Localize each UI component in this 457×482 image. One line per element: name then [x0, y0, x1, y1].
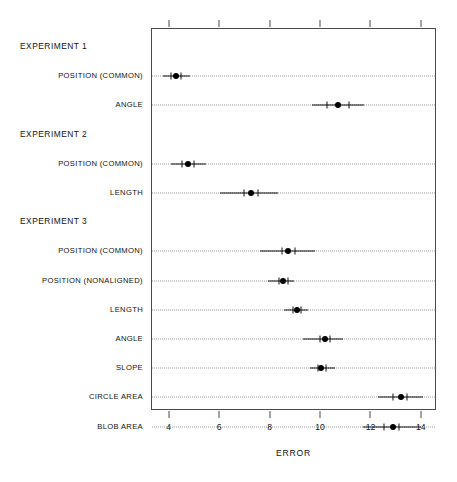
- error-bar-tick-inner-low: [170, 73, 171, 80]
- data-point: [318, 365, 324, 371]
- row-label: BLOB AREA: [97, 421, 143, 430]
- group-label-2: EXPERIMENT 2: [20, 129, 87, 139]
- axis-tick-label: 14: [416, 422, 426, 432]
- axis-tick-label: 8: [267, 422, 272, 432]
- axis-tick-top: [420, 20, 421, 27]
- x-axis-title: ERROR: [276, 448, 311, 458]
- axis-tick-label: 6: [217, 422, 222, 432]
- group-label-3: EXPERIMENT 3: [20, 216, 87, 226]
- error-bar-tick-inner-high: [301, 306, 302, 313]
- error-bar-tick-inner-high: [399, 423, 400, 430]
- axis-tick-bottom: [420, 411, 421, 418]
- row-label: LENGTH: [110, 304, 143, 313]
- error-bar-tick-inner-low: [319, 336, 320, 343]
- error-bar-tick-inner-high: [348, 102, 349, 109]
- error-bar-tick-inner-high: [326, 365, 327, 372]
- row-label: POSITION (NONALIGNED): [42, 275, 143, 284]
- error-bar-tick-inner-high: [287, 277, 288, 284]
- axis-tick-top: [168, 20, 169, 27]
- error-bar-tick-inner-low: [392, 394, 393, 401]
- grid-line: [152, 368, 435, 369]
- axis-tick-label: 4: [166, 422, 171, 432]
- error-bar-tick-inner-high: [181, 73, 182, 80]
- axis-tick-label: 10: [315, 422, 325, 432]
- axis-tick-bottom: [370, 411, 371, 418]
- row-label: ANGLE: [116, 334, 144, 343]
- axis-tick-bottom: [269, 411, 270, 418]
- error-bar-tick-inner-low: [281, 248, 282, 255]
- error-bar-tick-inner-high: [406, 394, 407, 401]
- data-point: [248, 190, 254, 196]
- data-point: [390, 424, 396, 430]
- group-label-1: EXPERIMENT 1: [20, 41, 87, 51]
- axis-tick-top: [370, 20, 371, 27]
- grid-line: [152, 339, 435, 340]
- axis-tick-bottom: [219, 411, 220, 418]
- error-bar-tick-inner-low: [182, 160, 183, 167]
- row-label: SLOPE: [116, 363, 143, 372]
- row-label: POSITION (COMMON): [58, 158, 143, 167]
- data-point: [398, 394, 404, 400]
- data-point: [185, 161, 191, 167]
- error-bar-tick-inner-low: [384, 423, 385, 430]
- data-point: [285, 248, 291, 254]
- row-label: CIRCLE AREA: [89, 392, 143, 401]
- row-label: POSITION (COMMON): [58, 71, 143, 80]
- plot-panel: [151, 28, 436, 410]
- axis-tick-bottom: [168, 411, 169, 418]
- row-label: POSITION (COMMON): [58, 246, 143, 255]
- data-point: [280, 278, 286, 284]
- row-labels-column: EXPERIMENT 1POSITION (COMMON)ANGLEEXPERI…: [0, 0, 151, 482]
- axis-tick-top: [219, 20, 220, 27]
- dot-plot-figure: EXPERIMENT 1POSITION (COMMON)ANGLEEXPERI…: [0, 0, 457, 482]
- row-label: ANGLE: [116, 100, 144, 109]
- data-point: [294, 307, 300, 313]
- grid-line: [152, 76, 435, 77]
- axis-tick-top: [269, 20, 270, 27]
- axis-tick-bottom: [319, 411, 320, 418]
- grid-line: [152, 105, 435, 106]
- axis-tick-top: [319, 20, 320, 27]
- data-point: [173, 73, 179, 79]
- error-bar-tick-inner-low: [327, 102, 328, 109]
- error-bar-tick-inner-high: [329, 336, 330, 343]
- error-bar-tick-inner-low: [244, 190, 245, 197]
- grid-line: [152, 193, 435, 194]
- error-bar-tick-inner-high: [294, 248, 295, 255]
- data-point: [322, 336, 328, 342]
- axis-tick-label: 12: [366, 422, 376, 432]
- error-bar-tick-inner-high: [257, 190, 258, 197]
- error-bar-tick-inner-high: [193, 160, 194, 167]
- row-label: LENGTH: [110, 188, 143, 197]
- data-point: [335, 102, 341, 108]
